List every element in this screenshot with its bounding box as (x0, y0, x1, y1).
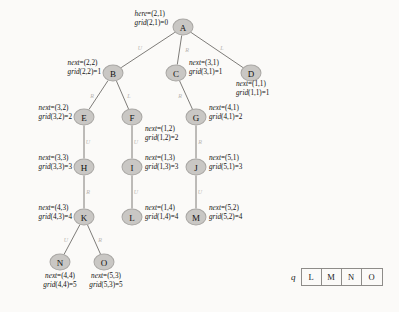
annotation-grid-line: grid(5,3)=5 (89, 281, 122, 290)
annotation-grid-line: grid(5,2)=4 (209, 213, 242, 222)
node-annotation-o: next=(5,3)grid(5,3)=5 (89, 272, 122, 290)
diagram-canvas: ABCDEFGHIJKLMNO here=(2,1)grid(2,1)=0nex… (0, 0, 399, 312)
annotation-next-line: next=(1,1) (236, 80, 269, 89)
node-annotation-i: next=(1,3)grid(1,3)=3 (145, 154, 178, 172)
annotation-grid-line: grid(1,3)=3 (145, 163, 178, 172)
tree-node-j[interactable]: J (186, 159, 207, 176)
tree-node-k[interactable]: K (74, 209, 95, 226)
annotation-next-line: next=(3,2) (39, 104, 72, 113)
edge-direction-label: R (86, 189, 90, 195)
queue-label: q (291, 272, 296, 282)
queue-widget: q LMNO (291, 268, 383, 286)
annotation-next-line: next=(1,3) (145, 154, 178, 163)
annotation-grid-line: grid(3,1)=1 (189, 68, 222, 77)
annotation-next-line: next=(3,1) (189, 59, 222, 68)
queue-cell[interactable]: M (322, 269, 342, 285)
annotation-grid-line: grid(3,3)=3 (39, 163, 72, 172)
node-annotation-f: next=(1,2)grid(1,2)=2 (145, 125, 178, 143)
annotation-next-line: next=(4,3) (39, 204, 72, 213)
annotation-next-line: next=(1,4) (145, 204, 178, 213)
annotation-next-line: next=(5,2) (209, 204, 242, 213)
node-annotation-j: next=(5,1)grid(5,1)=3 (209, 154, 242, 172)
edge-direction-label: R (178, 93, 182, 99)
node-annotation-l: next=(1,4)grid(1,4)=4 (145, 204, 178, 222)
tree-node-i[interactable]: I (122, 159, 143, 176)
annotation-next-line: here=(2,1) (135, 10, 168, 19)
annotation-grid-line: grid(4,3)=4 (39, 213, 72, 222)
edge-direction-label: R (90, 93, 94, 99)
annotation-grid-line: grid(1,4)=4 (145, 213, 178, 222)
tree-node-b[interactable]: B (103, 65, 124, 82)
annotation-grid-line: grid(1,2)=2 (145, 134, 178, 143)
tree-node-m[interactable]: M (186, 209, 207, 226)
node-annotation-n: next=(4,4)grid(4,4)=5 (43, 272, 76, 290)
tree-node-n[interactable]: N (50, 254, 71, 271)
node-annotation-g: next=(4,1)grid(4,1)=2 (209, 104, 242, 122)
annotation-grid-line: grid(4,1)=2 (209, 113, 242, 122)
node-annotation-k: next=(4,3)grid(4,3)=4 (39, 204, 72, 222)
edge-direction-label: U (134, 139, 138, 145)
annotation-next-line: next=(2,2) (68, 59, 101, 68)
tree-node-h[interactable]: H (74, 159, 95, 176)
edge-direction-label: U (138, 45, 142, 51)
annotation-next-line: next=(4,1) (209, 104, 242, 113)
tree-node-g[interactable]: G (186, 109, 207, 126)
annotation-grid-line: grid(2,1)=0 (135, 19, 168, 28)
annotation-next-line: next=(5,1) (209, 154, 242, 163)
edge-direction-label: U (86, 139, 90, 145)
tree-edge (121, 32, 175, 67)
annotation-next-line: next=(1,2) (145, 125, 178, 134)
edge-direction-label: U (64, 237, 68, 243)
annotation-grid-line: grid(4,4)=5 (43, 281, 76, 290)
edge-direction-label: R (185, 47, 189, 53)
edge-direction-label: U (134, 189, 138, 195)
node-annotation-b: next=(2,2)grid(2,2)=1 (68, 59, 101, 77)
node-annotation-a: here=(2,1)grid(2,1)=0 (135, 10, 168, 28)
tree-node-a[interactable]: A (173, 19, 194, 36)
tree-node-c[interactable]: C (166, 65, 187, 82)
queue-cell[interactable]: N (342, 269, 362, 285)
annotation-next-line: next=(5,3) (89, 272, 122, 281)
edge-direction-label: R (198, 139, 202, 145)
edge-direction-label: L (220, 45, 223, 51)
node-annotation-e: next=(3,2)grid(3,2)=2 (39, 104, 72, 122)
node-annotation-h: next=(3,3)grid(3,3)=3 (39, 154, 72, 172)
tree-node-e[interactable]: E (74, 109, 95, 126)
edge-direction-label: U (198, 189, 202, 195)
queue-cell[interactable]: L (302, 269, 322, 285)
tree-edge (177, 35, 181, 64)
annotation-grid-line: grid(5,1)=3 (209, 163, 242, 172)
node-annotation-c: next=(3,1)grid(3,1)=1 (189, 59, 222, 77)
queue-cell[interactable]: O (362, 269, 382, 285)
queue-cells: LMNO (301, 268, 383, 286)
annotation-grid-line: grid(2,2)=1 (68, 68, 101, 77)
tree-node-l[interactable]: L (122, 209, 143, 226)
annotation-next-line: next=(4,4) (43, 272, 76, 281)
edge-direction-label: L (127, 93, 130, 99)
annotation-grid-line: grid(1,1)=1 (236, 89, 269, 98)
tree-node-f[interactable]: F (122, 109, 143, 126)
annotation-grid-line: grid(3,2)=2 (39, 113, 72, 122)
node-annotation-m: next=(5,2)grid(5,2)=4 (209, 204, 242, 222)
edge-direction-label: R (98, 237, 102, 243)
annotation-next-line: next=(3,3) (39, 154, 72, 163)
node-annotation-d: next=(1,1)grid(1,1)=1 (236, 80, 269, 98)
tree-node-o[interactable]: O (94, 254, 115, 271)
